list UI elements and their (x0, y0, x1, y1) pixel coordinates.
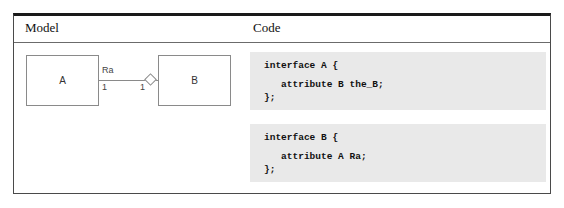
model-code-figure-table: Model Code A B Ra 1 1 interface A { (13, 13, 551, 194)
target-multiplicity-label: 1 (140, 82, 145, 92)
code-line: attribute A Ra; (264, 150, 546, 163)
aggregation-diamond-icon (144, 73, 157, 86)
code-cell: interface A { attribute B the_B; }; inte… (250, 43, 552, 195)
code-block-interface-b: interface B { attribute A Ra; }; (250, 124, 546, 182)
code-line: }; (264, 163, 546, 176)
source-multiplicity-label: 1 (102, 82, 107, 92)
uml-class-box-b: B (158, 55, 231, 106)
uml-class-name-b: B (191, 75, 198, 86)
column-header-code: Code (253, 20, 280, 36)
table-body-row: A B Ra 1 1 interface A { attribute B the… (14, 43, 550, 195)
association-name-label: Ra (102, 65, 114, 75)
code-line: attribute B the_B; (264, 78, 546, 91)
column-header-model: Model (25, 20, 59, 36)
uml-class-diagram: A B Ra 1 1 (14, 43, 250, 195)
model-cell: A B Ra 1 1 (14, 43, 250, 195)
code-line: interface A { (264, 59, 546, 72)
code-line: interface B { (264, 131, 546, 144)
code-line: }; (264, 91, 546, 104)
table-header-row: Model Code (14, 16, 550, 43)
code-block-interface-a: interface A { attribute B the_B; }; (250, 52, 546, 110)
uml-class-name-a: A (59, 75, 66, 86)
uml-class-box-a: A (26, 55, 99, 106)
